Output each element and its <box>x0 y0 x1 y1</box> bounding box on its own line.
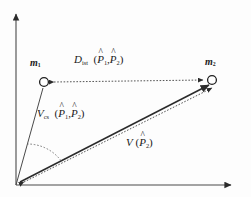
vector-close-paren: ) <box>149 136 153 148</box>
angle-arg2: ^P <box>71 108 78 119</box>
point-label-m2: m2 <box>205 57 216 68</box>
point-label-m1-sub: 1 <box>38 62 41 68</box>
angle-label: Vcs (^P1,^P2) <box>37 108 84 120</box>
figure-canvas: m1 m2 Dist (^P1,^P2) Vcs (^P1,^P2) V (^P… <box>0 0 251 197</box>
point-label-m2-sub: 2 <box>213 61 216 67</box>
angle-arg1: ^P <box>58 108 65 119</box>
distance-close-paren: ) <box>120 53 124 65</box>
distance-connector-line <box>54 80 203 82</box>
distance-arg2: ^P <box>110 54 117 65</box>
dotted-vector-origin-m2 <box>24 88 212 182</box>
angle-label-base: V <box>37 107 44 119</box>
point-label-m1: m1 <box>30 58 41 69</box>
hat-accent-icon: ^ <box>60 102 64 111</box>
hat-accent-icon: ^ <box>72 102 76 111</box>
origin-to-m1-line <box>16 88 43 185</box>
angle-close-paren: ) <box>81 107 85 119</box>
hat-accent-icon: ^ <box>140 131 144 140</box>
hat-accent-icon: ^ <box>98 48 102 57</box>
distance-label-base: D <box>74 53 82 65</box>
distance-arg1: ^P <box>97 54 104 65</box>
point-marker-m2 <box>208 76 217 85</box>
point-marker-m1 <box>40 78 49 87</box>
hat-accent-icon: ^ <box>111 48 115 57</box>
diagram-svg <box>0 0 251 197</box>
vector-arg1: ^P <box>139 137 146 148</box>
vector-v-p2-line <box>20 85 209 182</box>
point-label-m2-base: m <box>205 56 213 67</box>
vector-label: V (^P2) <box>126 137 153 149</box>
vector-label-base: V <box>126 136 133 148</box>
angle-arc <box>27 144 62 162</box>
point-label-m1-base: m <box>30 57 38 68</box>
distance-label: Dist (^P1,^P2) <box>74 54 123 66</box>
